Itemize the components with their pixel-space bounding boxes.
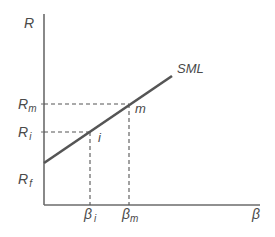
sml-diagram: R β SML Rm Ri Rf βi βm i m [0,0,275,237]
sml-line [44,76,172,163]
y-tick-rf: Rf [18,171,33,189]
point-m-label: m [135,101,146,116]
x-tick-beta-i: βi [83,206,97,224]
sml-label: SML [177,61,204,76]
y-tick-ri: Ri [18,124,32,142]
x-axis-label: β [251,206,260,222]
y-axis-label: R [24,15,34,31]
y-tick-rm: Rm [18,96,36,114]
point-i-label: i [98,130,102,145]
x-tick-beta-m: βm [121,206,138,224]
